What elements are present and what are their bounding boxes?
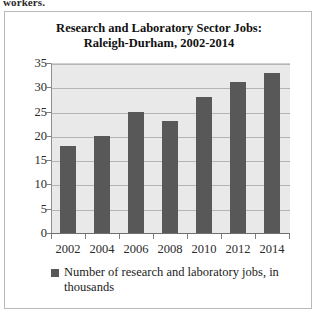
y-axis-tick-labels: 35302520151050 <box>15 63 47 233</box>
y-axis-tick-label: 15 <box>15 154 47 167</box>
x-axis-tick-label: 2008 <box>158 242 183 256</box>
x-axis-tickmark <box>187 234 188 239</box>
y-axis-tickmark <box>46 63 51 64</box>
y-axis-tickmark <box>46 184 51 185</box>
y-axis-tickmark <box>46 87 51 88</box>
bar-slot <box>187 63 221 233</box>
legend-color-swatch <box>51 269 59 277</box>
figure-container: Research and Laboratory Sector Jobs: Ral… <box>4 11 312 309</box>
bar-slot <box>51 63 85 233</box>
x-axis-tick-label: 2004 <box>90 242 115 256</box>
y-axis-tick-label: 10 <box>15 178 47 191</box>
x-axis-tick-label: 2002 <box>56 242 81 256</box>
y-axis-tick-label: 0 <box>15 227 47 240</box>
x-axis-tickmark <box>153 234 154 239</box>
x-axis-tick-labels: 2002200420062008201020122014 <box>51 242 289 260</box>
bar[interactable] <box>60 146 76 233</box>
y-axis-tick-label: 20 <box>15 130 47 143</box>
bar-slot <box>153 63 187 233</box>
y-axis-tick-label: 30 <box>15 81 47 94</box>
y-axis-tickmark <box>46 160 51 161</box>
x-axis-tick-label: 2010 <box>192 242 217 256</box>
bar-series-layer <box>51 63 289 233</box>
x-axis-tick-label: 2006 <box>124 242 149 256</box>
x-axis-tick-label: 2014 <box>260 242 285 256</box>
bar[interactable] <box>264 73 280 233</box>
x-axis-tickmark <box>289 234 290 239</box>
x-axis-tick-label: 2012 <box>226 242 251 256</box>
x-axis-tickmark <box>255 234 256 239</box>
bar[interactable] <box>162 121 178 233</box>
y-axis-tickmark <box>46 112 51 113</box>
bar[interactable] <box>196 97 212 233</box>
running-body-text: workers. <box>3 0 45 8</box>
y-axis-tick-label: 5 <box>15 202 47 215</box>
y-axis-tick-label: 35 <box>15 57 47 70</box>
chart-legend: Number of research and laboratory jobs, … <box>51 265 287 294</box>
x-axis-tickmark <box>119 234 120 239</box>
bar-slot <box>255 63 289 233</box>
bar-slot <box>119 63 153 233</box>
y-axis-tickmark <box>46 209 51 210</box>
bar[interactable] <box>230 82 246 233</box>
y-axis-tickmark <box>46 136 51 137</box>
bar-slot <box>85 63 119 233</box>
x-axis-tickmark <box>51 234 52 239</box>
x-axis-tickmark <box>221 234 222 239</box>
y-axis-tick-label: 25 <box>15 105 47 118</box>
bar[interactable] <box>94 136 110 233</box>
bar-slot <box>221 63 255 233</box>
bar[interactable] <box>128 112 144 233</box>
legend-label: Number of research and laboratory jobs, … <box>64 265 287 294</box>
x-axis-line <box>50 233 290 234</box>
x-axis-tickmark <box>85 234 86 239</box>
